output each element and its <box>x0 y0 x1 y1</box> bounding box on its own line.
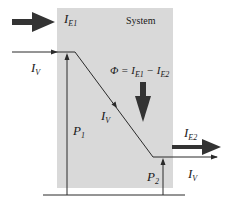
energy-out-label: IE2 <box>184 126 197 142</box>
flow-out-arrowhead <box>211 155 218 160</box>
flow-in-label: IV <box>31 61 40 77</box>
flow-in-arrowhead <box>51 50 58 55</box>
power-symbol: Φ = <box>110 64 131 76</box>
power-term-1-sub: E1 <box>135 70 144 79</box>
energy-out-arrow-shaft <box>172 145 204 149</box>
potential-1-symbol: P <box>73 123 81 138</box>
energy-in-arrowhead <box>32 12 55 32</box>
power-arrow-shaft <box>140 82 146 98</box>
flow-mid-label: IV <box>101 109 110 125</box>
flow-in-subscript: V <box>35 68 40 77</box>
energy-in-subscript: E1 <box>68 19 77 28</box>
energy-in-arrow-shaft <box>12 19 34 25</box>
potential-1-subscript: 1 <box>81 131 85 140</box>
potential-2-label: P2 <box>147 170 159 186</box>
energy-flow-diagram <box>0 0 233 206</box>
flow-mid-subscript: V <box>105 116 110 125</box>
energy-in-label: IE1 <box>64 12 77 28</box>
flow-out-label: IV <box>188 167 197 183</box>
minus-sign: − <box>144 64 157 76</box>
potential-2-symbol: P <box>147 169 155 184</box>
energy-out-arrowhead <box>202 139 221 155</box>
potential-1-label: P1 <box>73 124 85 140</box>
energy-out-subscript: E2 <box>188 133 197 142</box>
potential-2-subscript: 2 <box>155 177 159 186</box>
power-equation: Φ = IE1 − IE2 <box>110 65 169 79</box>
flow-out-subscript: V <box>192 174 197 183</box>
power-term-2-sub: E2 <box>160 70 169 79</box>
system-label: System <box>126 16 155 26</box>
system-box <box>57 8 173 188</box>
